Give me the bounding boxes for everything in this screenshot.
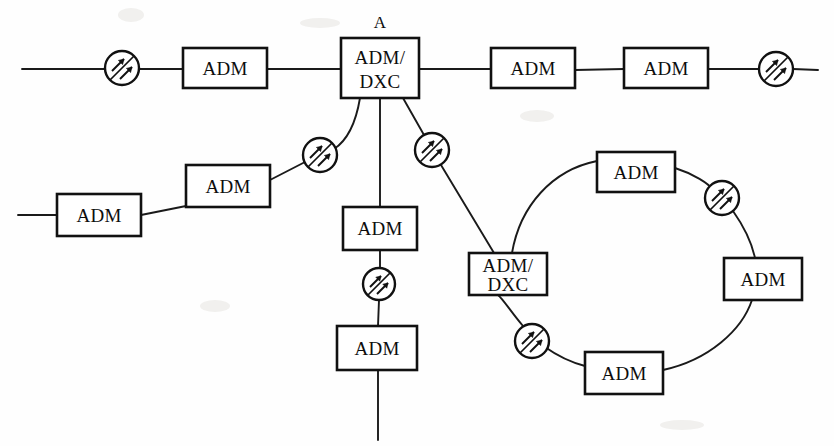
node-adm-mid-1[interactable]: ADM [343, 207, 417, 250]
ring-amp-to-b [498, 295, 523, 326]
link-layer [18, 69, 818, 440]
optical-amplifier-icon[interactable] [759, 52, 793, 86]
node-layer: ADM A ADM/ DXC ADM ADM ADM [57, 13, 802, 394]
ring-ringbottom-to-amp [545, 347, 585, 366]
link-a-right-branch [403, 98, 424, 135]
link-admleft2-to-admleft1 [141, 206, 186, 215]
network-diagram-canvas: ADM A ADM/ DXC ADM ADM ADM [0, 0, 834, 446]
optical-amplifier-icon[interactable] [415, 133, 449, 167]
node-label: ADM [205, 176, 250, 197]
ring-ringtop-to-amp [675, 168, 712, 189]
node-label: ADM [202, 58, 247, 79]
link-a-left-branch [334, 98, 360, 149]
node-label-line1: ADM/ [483, 255, 534, 276]
node-adm-ring-top[interactable]: ADM [597, 152, 675, 192]
node-label: ADM [740, 269, 785, 290]
link-amp-to-admmid2 [378, 300, 379, 326]
node-label: ADM [357, 218, 402, 239]
link-adm2-to-adm3 [575, 69, 624, 70]
node-label: ADM [510, 58, 555, 79]
node-a-caption: A [374, 13, 387, 32]
node-adm-top-2[interactable]: ADM [491, 48, 575, 88]
node-label: ADM [643, 58, 688, 79]
node-label: ADM [76, 205, 121, 226]
node-label-line1: ADM/ [355, 47, 406, 68]
link-amp-to-admleft2 [270, 162, 305, 180]
node-label-line2: DXC [359, 71, 400, 92]
optical-amplifier-icon[interactable] [303, 138, 337, 172]
ring-ringright-to-ringbottom [663, 300, 752, 370]
optical-amplifier-icon[interactable] [515, 324, 549, 358]
node-label: ADM [601, 363, 646, 384]
node-adm-left-1[interactable]: ADM [57, 194, 141, 236]
ring-amp-to-ringright [733, 211, 755, 258]
node-label: ADM [354, 338, 399, 359]
node-adm-ring-right[interactable]: ADM [724, 258, 802, 300]
node-adm-dxc-b[interactable]: ADM/ DXC [469, 253, 547, 295]
network-topology-svg: ADM A ADM/ DXC ADM ADM ADM [0, 0, 834, 446]
link-amp-to-admdxcb [441, 165, 494, 253]
optical-amplifier-icon[interactable] [105, 51, 139, 85]
optical-amplifier-icon[interactable] [705, 181, 739, 215]
node-adm-top-3[interactable]: ADM [624, 48, 708, 88]
link-amp-east-tail [793, 69, 818, 70]
node-label: ADM [613, 162, 658, 183]
node-adm-top-1[interactable]: ADM [183, 48, 267, 88]
node-adm-ring-bottom[interactable]: ADM [585, 352, 663, 394]
node-label-line2: DXC [487, 274, 528, 295]
ring-b-to-ringtop [512, 161, 597, 253]
optical-amplifier-icon[interactable] [363, 268, 395, 300]
node-adm-mid-2[interactable]: ADM [337, 326, 417, 370]
node-adm-dxc-a[interactable]: ADM/ DXC [341, 38, 419, 98]
node-adm-left-2[interactable]: ADM [186, 165, 270, 207]
